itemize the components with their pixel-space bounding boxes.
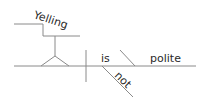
word-complement: polite <box>150 52 181 65</box>
sentence-diagram: Yelling is polite not <box>0 0 202 103</box>
word-modifier: not <box>112 69 134 91</box>
word-verb: is <box>101 52 110 65</box>
pedestal-base <box>41 56 69 66</box>
word-subject: Yelling <box>31 8 69 32</box>
gerund-step-line <box>14 24 80 36</box>
complement-slant <box>120 50 135 66</box>
